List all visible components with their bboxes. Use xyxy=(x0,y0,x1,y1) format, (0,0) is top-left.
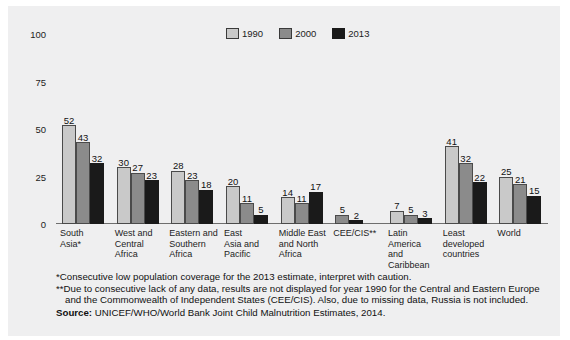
bar-value-label: 32 xyxy=(460,154,471,164)
x-category-label: South Asia* xyxy=(60,228,113,249)
bar-2013: 2 xyxy=(349,220,363,224)
bar-value-label: 43 xyxy=(78,133,89,143)
x-category-label: West and Central Africa xyxy=(115,228,168,260)
note-asterisk: *Consecutive low population coverage for… xyxy=(56,271,548,283)
bar-value-label: 11 xyxy=(242,194,252,204)
x-category-label: World xyxy=(497,228,550,239)
bar-group-bars: 52 xyxy=(335,34,363,224)
bar-group: 252115 xyxy=(499,34,541,224)
bar-group-bars: 20115 xyxy=(226,34,268,224)
bar-group: 52 xyxy=(335,34,363,224)
bar-value-label: 41 xyxy=(446,137,457,147)
bar-value-label: 22 xyxy=(474,173,485,183)
bar-group: 524332 xyxy=(62,34,104,224)
note-double-asterisk: **Due to consecutive lack of any data, r… xyxy=(56,283,548,306)
bar-value-label: 20 xyxy=(228,177,239,187)
x-category-label: Latin America and Caribbean xyxy=(388,228,441,270)
bar-value-label: 27 xyxy=(132,163,143,173)
bar-2013: 22 xyxy=(473,182,487,224)
x-category-label: Middle East and North Africa xyxy=(279,228,332,260)
source-text: UNICEF/WHO/World Bank Joint Child Malnut… xyxy=(95,307,386,318)
bar-value-label: 28 xyxy=(173,161,184,171)
bar-value-label: 21 xyxy=(515,175,526,185)
bar-value-label: 23 xyxy=(146,171,157,181)
bar-value-label: 17 xyxy=(310,182,321,192)
source-label: Source: xyxy=(56,307,92,318)
bar-group-bars: 282318 xyxy=(171,34,213,224)
bar-1990: 28 xyxy=(171,171,185,224)
bar-group: 282318 xyxy=(171,34,213,224)
bar-value-label: 3 xyxy=(422,209,427,219)
y-tick-label: 100 xyxy=(30,29,46,40)
bar-1990: 30 xyxy=(117,167,131,224)
bar-value-label: 52 xyxy=(64,116,75,126)
bar-2000: 43 xyxy=(76,142,90,224)
bar-value-label: 14 xyxy=(282,188,293,198)
bar-value-label: 18 xyxy=(201,180,212,190)
bar-1990: 25 xyxy=(499,177,513,225)
x-category-label: CEE/CIS** xyxy=(333,228,386,239)
bar-group-bars: 524332 xyxy=(62,34,104,224)
x-category-label: Eastern and Southern Africa xyxy=(169,228,222,260)
bar-group: 753 xyxy=(390,34,432,224)
bar-2000: 21 xyxy=(513,184,527,224)
bar-1990: 41 xyxy=(445,146,459,224)
bar-2013: 18 xyxy=(199,190,213,224)
y-tick-label: 75 xyxy=(35,76,46,87)
bar-group: 20115 xyxy=(226,34,268,224)
bar-group: 141117 xyxy=(281,34,323,224)
bar-2000: 23 xyxy=(185,180,199,224)
y-tick-label: 0 xyxy=(41,219,46,230)
source-line: Source: UNICEF/WHO/World Bank Joint Chil… xyxy=(56,307,548,319)
bar-group-bars: 753 xyxy=(390,34,432,224)
bar-1990: 20 xyxy=(226,186,240,224)
bar-1990: 14 xyxy=(281,197,295,224)
bar-2000: 11 xyxy=(240,203,254,224)
bar-2000: 5 xyxy=(404,215,418,225)
bar-group-bars: 252115 xyxy=(499,34,541,224)
bar-2013: 32 xyxy=(90,163,104,224)
bar-2000: 11 xyxy=(295,203,309,224)
bar-value-label: 5 xyxy=(408,205,413,215)
bar-group-bars: 141117 xyxy=(281,34,323,224)
bar-value-label: 32 xyxy=(92,154,103,164)
bar-value-label: 30 xyxy=(118,158,129,168)
bar-group: 413222 xyxy=(445,34,487,224)
bar-2013: 15 xyxy=(527,196,541,225)
bar-2013: 5 xyxy=(254,215,268,225)
bar-value-label: 5 xyxy=(258,205,263,215)
bar-value-label: 7 xyxy=(394,201,399,211)
bar-2000: 32 xyxy=(459,163,473,224)
plot-area: 5243323027232823182011514111752753413222… xyxy=(56,34,548,224)
bar-2000: 27 xyxy=(131,173,145,224)
figure-panel: 1990 2000 2013 0255075100 52433230272328… xyxy=(8,6,560,336)
y-tick-label: 25 xyxy=(35,171,46,182)
bar-value-label: 5 xyxy=(340,205,345,215)
bar-group: 302723 xyxy=(117,34,159,224)
bar-2000: 5 xyxy=(335,215,349,225)
chart-notes: *Consecutive low population coverage for… xyxy=(56,271,548,318)
bar-value-label: 25 xyxy=(501,167,512,177)
bar-2013: 3 xyxy=(418,218,432,224)
bar-1990: 52 xyxy=(62,125,76,224)
bar-1990: 7 xyxy=(390,211,404,224)
bar-value-label: 11 xyxy=(297,194,307,204)
x-category-label: Least developed countries xyxy=(443,228,496,260)
bar-2013: 23 xyxy=(145,180,159,224)
bar-value-label: 2 xyxy=(354,211,359,221)
bar-group-bars: 302723 xyxy=(117,34,159,224)
x-category-label: East Asia and Pacific xyxy=(224,228,277,260)
bar-value-label: 23 xyxy=(187,171,198,181)
bar-2013: 17 xyxy=(309,192,323,224)
y-tick-label: 50 xyxy=(35,124,46,135)
bar-value-label: 15 xyxy=(529,186,540,196)
bar-group-bars: 413222 xyxy=(445,34,487,224)
